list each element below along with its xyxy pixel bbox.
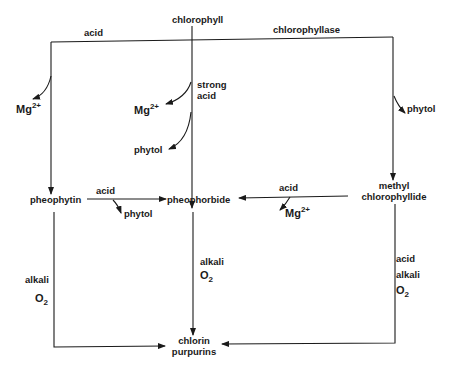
node-chlorin-purpurins: chlorin purpurins (166, 335, 222, 357)
label-right-phytol: phytol (407, 103, 436, 114)
left-mg-release-arrow (33, 76, 51, 99)
label-strong-acid: strong acid (197, 79, 227, 101)
label-center-phytol: phytol (134, 144, 163, 155)
label-right-o2: O2 (396, 285, 409, 296)
purpurins-line: purpurins (166, 346, 222, 357)
label-right-alkali: alkali (396, 269, 420, 280)
center-mg-release-arrow (166, 82, 191, 104)
node-methyl-chlorophyllide: methyl chlorophyllide (350, 180, 438, 202)
node-chlorophyll: chlorophyll (172, 14, 223, 25)
mg-symbol: Mg (16, 103, 32, 115)
o-symbol: O (200, 269, 209, 281)
methyl-line: methyl (350, 180, 438, 191)
o-symbol: O (396, 284, 405, 296)
o-symbol: O (35, 292, 44, 304)
label-chlorophyllase: chlorophyllase (273, 24, 340, 35)
mg-charge: 2+ (32, 101, 41, 110)
mg-charge: 2+ (301, 205, 310, 214)
label-center-o2: O2 (200, 270, 213, 281)
center-phytol-release-arrow (169, 112, 191, 149)
label-pheophytin-acid: acid (96, 185, 115, 196)
methyl-to-pheophorbide-arrow (239, 196, 348, 198)
node-pheophorbide: pheophorbide (167, 194, 230, 205)
label-methyl-mg2plus: Mg2+ (285, 208, 310, 219)
node-pheophytin: pheophytin (30, 194, 81, 205)
acid-text: acid (197, 90, 227, 101)
pheophytin-to-chlorin-line (54, 212, 165, 347)
label-left-o2: O2 (35, 293, 48, 304)
chlorophyllide-line: chlorophyllide (350, 191, 438, 202)
right-phytol-release-arrow (394, 96, 405, 113)
label-left-mg2plus: Mg2+ (16, 104, 41, 115)
chlorin-line: chlorin (166, 335, 222, 346)
methyl-to-chlorin-line (222, 204, 395, 344)
o-subscript: 2 (405, 290, 409, 299)
label-top-acid: acid (84, 27, 103, 38)
label-left-alkali: alkali (25, 274, 49, 285)
strong-text: strong (197, 79, 227, 90)
label-methyl-acid: acid (279, 182, 298, 193)
pheophytin-phytol-release-arrow (113, 200, 121, 213)
o-subscript: 2 (209, 275, 213, 284)
o-subscript: 2 (44, 298, 48, 307)
label-center-alkali: alkali (200, 256, 224, 267)
mg-symbol: Mg (134, 104, 150, 116)
label-pheophytin-phytol: phytol (124, 208, 153, 219)
label-center-mg2plus: Mg2+ (134, 105, 159, 116)
mg-charge: 2+ (150, 102, 159, 111)
label-right-acid: acid (396, 253, 415, 264)
mg-symbol: Mg (285, 207, 301, 219)
